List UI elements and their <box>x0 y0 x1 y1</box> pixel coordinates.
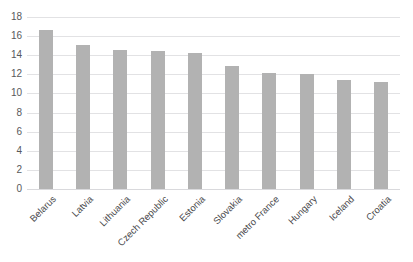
bar <box>39 30 53 189</box>
bar <box>300 74 314 189</box>
bar <box>76 45 90 189</box>
bar <box>374 82 388 189</box>
y-axis-tick-label: 18 <box>11 12 22 22</box>
y-axis-tick-label: 12 <box>11 69 22 79</box>
x-axis-category-label: Iceland <box>327 194 355 222</box>
bar-chart: 024681012141618 BelarusLatviaLithuaniaCz… <box>0 0 413 262</box>
x-axis-category-label: Belarus <box>28 194 57 223</box>
x-axis-category-label: Croatia <box>365 194 393 222</box>
y-axis: 024681012141618 <box>0 0 27 206</box>
y-axis-tick-label: 2 <box>16 165 22 175</box>
plot-area <box>27 17 400 189</box>
y-axis-tick-label: 6 <box>16 127 22 137</box>
x-axis-category-label: Latvia <box>70 194 95 219</box>
bar <box>113 50 127 189</box>
bars-layer <box>27 17 400 189</box>
y-axis-tick-label: 8 <box>16 108 22 118</box>
bar <box>151 51 165 189</box>
y-axis-tick-label: 14 <box>11 50 22 60</box>
bar <box>225 66 239 189</box>
bar <box>337 80 351 189</box>
y-axis-tick-label: 16 <box>11 31 22 41</box>
x-axis-category-label: Lithuania <box>98 194 132 228</box>
bar <box>262 73 276 189</box>
y-axis-tick-label: 0 <box>16 184 22 194</box>
x-axis-category-label: Estonia <box>177 194 206 223</box>
bar <box>188 53 202 189</box>
x-axis: BelarusLatviaLithuaniaCzech RepublicEsto… <box>27 190 400 262</box>
y-axis-tick-label: 10 <box>11 88 22 98</box>
x-axis-category-label: Slovakia <box>212 194 244 226</box>
x-axis-category-label: Hungary <box>286 194 318 226</box>
y-axis-tick-label: 4 <box>16 146 22 156</box>
